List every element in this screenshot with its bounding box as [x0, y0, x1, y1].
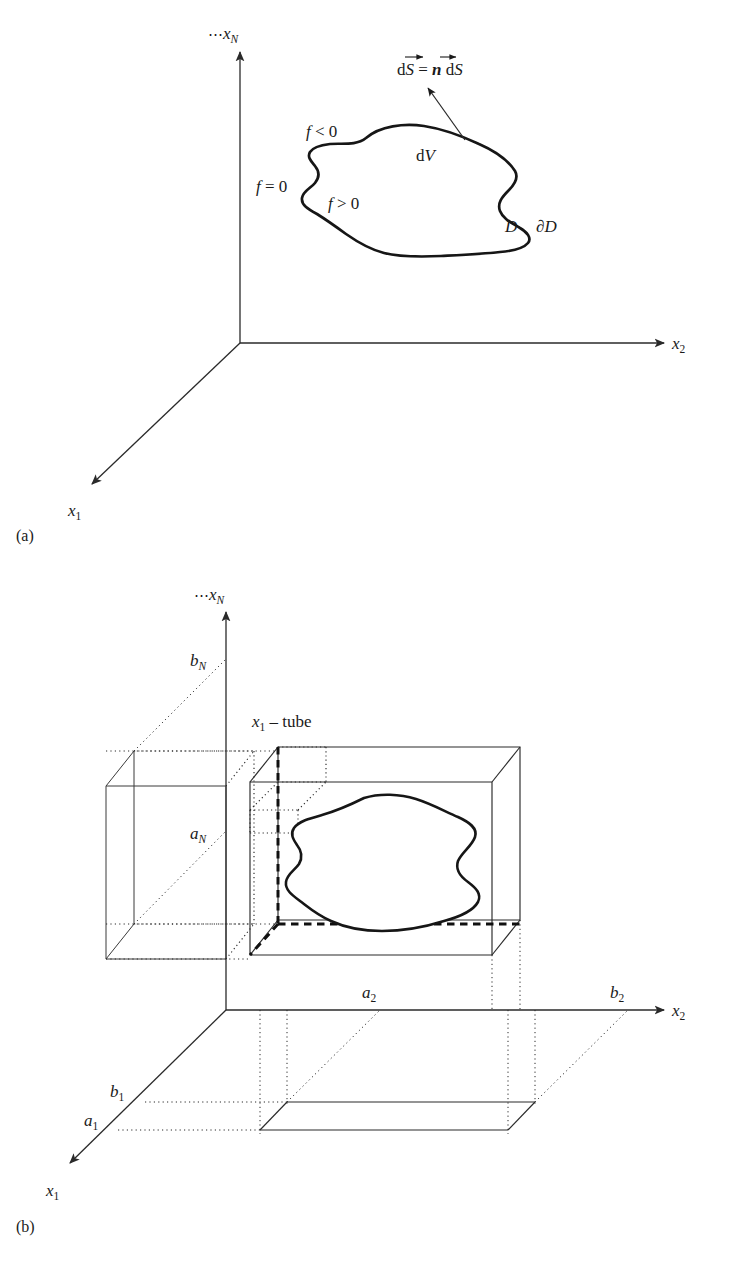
- flux-label-text: dS = n dS: [397, 60, 463, 79]
- axis-x1-b: [70, 1010, 226, 1163]
- figure-page: dS = n dS f < 0 f = 0 f > 0 dV: [0, 0, 738, 1267]
- panel-caption-a: (a): [16, 527, 34, 545]
- axis-label-x1-b: x1: [45, 1181, 60, 1202]
- axis-x1-a: [92, 343, 240, 484]
- guide-a2-diagonal: [287, 1010, 380, 1102]
- floor-projection-b: [260, 1102, 535, 1130]
- label-f-positive: f > 0: [328, 194, 359, 213]
- panel-b: ⋯xN x2 x1 bN aN x1 – tube a2 b2: [16, 585, 686, 1236]
- label-a1: a1: [84, 1111, 99, 1132]
- flux-label-a: dS = n dS: [397, 57, 463, 79]
- projbox-depth-botleft: [106, 924, 134, 959]
- label-D: D: [504, 217, 518, 236]
- label-bN: bN: [190, 651, 208, 672]
- mathematical-figure: dS = n dS f < 0 f = 0 f > 0 dV: [0, 0, 738, 1267]
- floor-right-edge: [508, 1102, 535, 1130]
- panel-a: dS = n dS f < 0 f = 0 f > 0 dV: [16, 24, 686, 545]
- axis-label-x1-a: x1: [67, 501, 82, 522]
- label-aN: aN: [190, 824, 208, 845]
- label-b1: b1: [110, 1082, 125, 1103]
- projbox-depth-topleft: [106, 751, 134, 786]
- region-boundary-a: [302, 125, 530, 257]
- axis-label-x2-b: x2: [671, 1001, 686, 1022]
- region-boundary-b: [286, 795, 479, 931]
- axis-label-xN-a: ⋯xN: [208, 24, 240, 45]
- guide-aN-diagonal: [134, 831, 226, 924]
- projbox-depth-topright: [226, 751, 254, 786]
- panel-caption-b: (b): [16, 1218, 35, 1236]
- label-a2: a2: [362, 983, 377, 1004]
- projbox-front-face: [106, 786, 226, 959]
- label-boundary-D: ∂D: [536, 217, 557, 236]
- label-f-negative: f < 0: [306, 122, 337, 141]
- label-b2: b2: [610, 983, 625, 1004]
- projection-box-b: [106, 659, 254, 959]
- guide-bN-diagonal: [134, 659, 226, 751]
- mainbox-depth-topright: [492, 747, 520, 782]
- floor-guides-b: [116, 1010, 628, 1134]
- label-f-zero: f = 0: [256, 177, 287, 196]
- floor-left-edge: [260, 1102, 287, 1130]
- axis-label-xN-b: ⋯xN: [194, 585, 226, 606]
- label-x1-tube: x1 – tube: [251, 712, 312, 733]
- guide-b2-diagonal: [535, 1010, 628, 1102]
- axis-label-x2-a: x2: [671, 334, 686, 355]
- label-dV: dV: [416, 146, 438, 165]
- tube-edge-3: [298, 782, 326, 810]
